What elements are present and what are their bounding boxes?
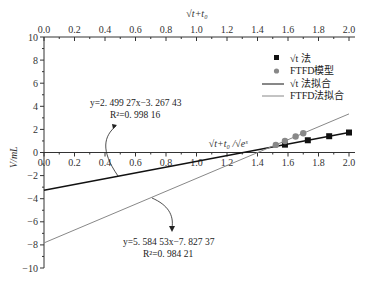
arrow-2: [152, 198, 172, 228]
legend-square-icon: [274, 55, 279, 60]
zero-x-tick-label: 1.6: [282, 157, 295, 168]
top-x-tick-label: 0.0: [38, 24, 51, 35]
top-x-tick-label: 0.4: [99, 24, 112, 35]
top-x-tick-label: 1.4: [251, 24, 264, 35]
fit-line-0: [44, 133, 349, 191]
zero-x-tick-label: 2.0: [343, 157, 356, 168]
circle-marker: [273, 142, 279, 148]
top-x-tick-label: 1.6: [282, 24, 295, 35]
equation-2: y=5. 584 53x−7. 827 37: [123, 237, 215, 247]
y-tick-label: −10: [22, 263, 38, 274]
top-x-tick-label: 0.6: [129, 24, 142, 35]
y-axis-label: V/mL: [8, 146, 19, 168]
y-tick-label: −8: [27, 239, 38, 250]
y-tick-label: 10: [28, 32, 38, 43]
circle-marker: [282, 138, 288, 144]
top-x-tick-label: 0.8: [160, 24, 173, 35]
circle-marker: [300, 130, 306, 136]
legend-item-1: FTFD模型: [290, 64, 334, 76]
y-tick-label: −6: [27, 216, 38, 227]
chart: 1086420−2−4−6−8−100.00.00.20.20.40.40.60…: [0, 0, 366, 283]
y-tick-label: 6: [33, 78, 38, 89]
inner-axis-label: √t+t₀ /√eˢ: [209, 138, 248, 149]
legend-circle-icon: [274, 68, 279, 73]
zero-x-tick-label: 0.6: [129, 157, 142, 168]
r-squared-1: R²=0. 998 16: [110, 110, 160, 120]
zero-x-tick-label: 1.4: [251, 157, 264, 168]
square-marker: [326, 133, 332, 139]
top-x-tick-label: 1.2: [221, 24, 234, 35]
top-x-tick-label: 1.8: [312, 24, 325, 35]
legend-item-2: √t 法拟合: [290, 77, 331, 89]
zero-x-tick-label: 0.2: [68, 157, 81, 168]
arrow-1: [106, 126, 118, 176]
top-x-tick-label: 2.0: [343, 24, 356, 35]
top-x-tick-label: 1.0: [190, 24, 203, 35]
y-tick-label: −2: [27, 170, 38, 181]
y-tick-label: 8: [33, 55, 38, 66]
arrow-1-head: [112, 124, 117, 129]
r-squared-2: R²=0. 984 21: [143, 249, 193, 259]
square-marker: [346, 130, 352, 136]
equation-1: y=2. 499 27x−3. 267 43: [90, 98, 182, 108]
square-marker: [305, 137, 311, 143]
arrow-2-head: [169, 226, 175, 232]
zero-x-tick-label: 0.4: [99, 157, 112, 168]
top-x-tick-label: 0.2: [68, 24, 81, 35]
top-axis-label: √t+t₀: [186, 8, 208, 19]
legend-item-3: FTFD法拟合: [290, 89, 344, 101]
y-tick-label: 2: [33, 124, 38, 135]
y-tick-label: 4: [33, 101, 38, 112]
legend-item-0: √t 法: [290, 52, 311, 64]
circle-marker: [292, 133, 298, 139]
y-tick-label: −4: [27, 193, 38, 204]
zero-x-tick-label: 0.0: [38, 157, 51, 168]
zero-x-tick-label: 1.8: [312, 157, 325, 168]
